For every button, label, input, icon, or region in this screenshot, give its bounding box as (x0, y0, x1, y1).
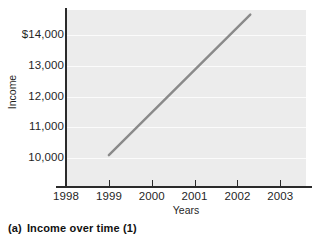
x-tick-label-2001: 2001 (175, 190, 215, 202)
chart-line-layer (66, 10, 306, 186)
figure-caption: (a)Income over time (1) (8, 222, 137, 234)
y-axis-title: Income (6, 62, 18, 122)
x-tick-mark-1999 (109, 180, 110, 186)
y-tick-label-10000: 10,000 (28, 151, 64, 163)
x-tick-mark-2001 (195, 180, 196, 186)
figure-income-over-time: 10,00011,00012,00013,000$14,000 19981999… (0, 0, 315, 244)
y-tick-label-11000: 11,000 (29, 120, 64, 132)
x-tick-label-1998: 1998 (46, 190, 86, 202)
x-tick-label-2002: 2002 (217, 190, 257, 202)
y-axis-spine (65, 8, 67, 188)
y-tick-label-12000: 12,000 (28, 90, 64, 102)
x-tick-label-1999: 1999 (89, 190, 129, 202)
x-tick-mark-2002 (237, 180, 238, 186)
x-tick-label-2000: 2000 (132, 190, 172, 202)
x-tick-mark-2000 (152, 180, 153, 186)
income-trend-line (109, 15, 250, 155)
caption-tag: (a) (8, 222, 22, 234)
x-tick-mark-2003 (280, 180, 281, 186)
caption-text: Income over time (1) (27, 222, 137, 234)
x-axis-title: Years (66, 204, 306, 216)
x-tick-label-2003: 2003 (260, 190, 300, 202)
x-tick-mark-1998 (66, 180, 67, 186)
x-axis-spine (56, 186, 312, 188)
y-tick-label-13000: 13,000 (28, 59, 64, 71)
y-tick-label-14000: $14,000 (22, 28, 64, 40)
chart-plot-area (66, 10, 306, 186)
